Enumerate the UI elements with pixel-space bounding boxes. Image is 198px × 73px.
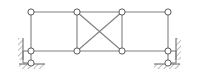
top-left-node: [28, 9, 34, 15]
frame-diagram: [0, 0, 198, 73]
frame-diagram-canvas: [0, 0, 198, 73]
bottom-right-node: [165, 48, 171, 54]
right-roller-node: [165, 60, 171, 66]
left-wall-hatching: [18, 38, 23, 60]
left-roller-node: [28, 60, 34, 66]
right-wall-hatching: [176, 38, 181, 60]
top-mid-left-node: [74, 9, 80, 15]
bottom-left-node: [28, 48, 34, 54]
bottom-mid-right-node: [119, 48, 125, 54]
top-right-node: [165, 9, 171, 15]
top-mid-right-node: [119, 9, 125, 15]
bottom-mid-left-node: [74, 48, 80, 54]
